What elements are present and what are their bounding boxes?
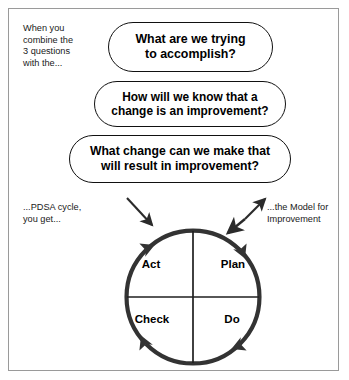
pdsa-cycle <box>113 217 273 377</box>
cycle-label-act: Act <box>131 258 171 270</box>
model-note: ...the Model for Improvement <box>267 202 349 225</box>
diagram-frame: When you combine the 3 questions with th… <box>8 8 339 371</box>
question-box-aim: What are we trying to accomplish? <box>108 22 273 72</box>
cycle-label-plan: Plan <box>212 258 254 270</box>
intro-note: When you combine the 3 questions with th… <box>23 23 109 69</box>
cycle-label-do: Do <box>214 313 250 325</box>
pdsa-note: ...PDSA cycle, you get... <box>23 202 118 225</box>
question-box-change: What change can we make that will result… <box>69 135 291 183</box>
question-box-measure: How will we know that a change is an imp… <box>94 81 286 127</box>
cycle-label-check: Check <box>126 313 178 325</box>
pdsa-circle-icon <box>113 217 273 377</box>
